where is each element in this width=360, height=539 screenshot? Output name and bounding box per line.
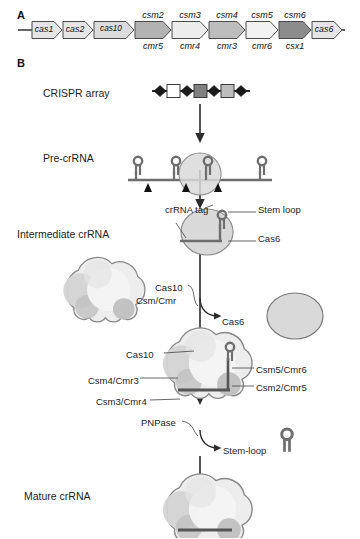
pre-crrna-graphic bbox=[128, 153, 272, 195]
crispr-repeat-diamond bbox=[154, 86, 166, 97]
gene-alt-bottom-cmr3: cmr3 bbox=[207, 41, 247, 51]
pre-crrna-stem-loop bbox=[258, 157, 266, 175]
callout-pnpase: PNPase bbox=[141, 417, 176, 428]
gene-name-cas10: cas10 bbox=[94, 24, 128, 33]
gene-alt-bottom-csx1: csx1 bbox=[277, 41, 313, 51]
gene-name-cas2: cas2 bbox=[63, 24, 87, 34]
released-stem-loop bbox=[282, 429, 293, 452]
crispr-array-graphic bbox=[152, 85, 250, 98]
callout-csm4-cmr3: Csm4/Cmr3 bbox=[88, 375, 139, 386]
gene-arrow-csm6 bbox=[279, 22, 311, 39]
stage-label-pre-crrna: Pre-crRNA bbox=[43, 152, 94, 164]
gene-alt-top-csm3: csm3 bbox=[170, 10, 210, 20]
callout-stem-loop-released: Stem-loop bbox=[223, 445, 266, 456]
callout-csm-cmr-assembly: Csm/Cmr bbox=[136, 295, 176, 306]
callout-cas6: Cas6 bbox=[258, 233, 280, 244]
crispr-repeat-diamond bbox=[208, 86, 220, 97]
assembled-interference-complex bbox=[163, 328, 252, 398]
figure-root: A B cas1cas2cas10csm2csm2cmr5csm3csm3cmr… bbox=[0, 0, 360, 539]
released-stem-loop-graphic bbox=[282, 429, 293, 452]
gene-arrow-csm5 bbox=[246, 22, 278, 39]
callout-csm5-cmr6: Csm5/Cmr6 bbox=[256, 364, 307, 375]
stage-label-crispr-array: CRISPR array bbox=[43, 87, 110, 99]
crispr-repeat-diamond bbox=[235, 86, 247, 97]
gene-alt-top-csm4: csm4 bbox=[207, 10, 247, 20]
gene-arrow-csm4 bbox=[209, 22, 245, 39]
cas10-csm-cmr-complex-free bbox=[63, 258, 145, 322]
callout-crrna-tag: crRNA tag bbox=[165, 204, 208, 215]
gene-alt-bottom-cmr6: cmr6 bbox=[244, 41, 280, 51]
stage-label-intermediate-crrna: Intermediate crRNA bbox=[17, 228, 109, 240]
pre-crrna-stem-loop bbox=[172, 157, 180, 175]
callout-csm3-cmr4: Csm3/Cmr4 bbox=[96, 396, 147, 407]
gene-arrow-csm2 bbox=[135, 22, 171, 39]
mature-crrna-complex bbox=[163, 474, 252, 538]
callout-stem-loop: Stem loop bbox=[258, 204, 301, 215]
cas6-released-protein bbox=[267, 293, 323, 339]
panel-b-pathway-diagram bbox=[0, 58, 360, 538]
gene-alt-top-csm2: csm2 bbox=[133, 10, 173, 20]
pre-crrna-stem-loop bbox=[134, 157, 142, 175]
gene-alt-top-csm5: csm5 bbox=[244, 10, 280, 20]
gene-alt-bottom-cmr4: cmr4 bbox=[170, 41, 210, 51]
gene-alt-bottom-cmr5: cmr5 bbox=[133, 41, 173, 51]
cleavage-site-marker bbox=[144, 183, 152, 192]
gene-alt-top-csm6: csm6 bbox=[277, 10, 313, 20]
callout-cas10-assembly: Cas10 bbox=[155, 282, 182, 293]
cut-off-caption bbox=[0, 530, 360, 539]
gene-arrow-csm3 bbox=[172, 22, 208, 39]
gene-name-cas1: cas1 bbox=[32, 24, 56, 34]
gene-name-cas6: cas6 bbox=[312, 24, 336, 34]
callout-csm2-cmr5: Csm2/Cmr5 bbox=[256, 382, 307, 393]
callout-cas10: Cas10 bbox=[126, 349, 153, 360]
stage-label-mature-crrna: Mature crRNA bbox=[24, 490, 91, 502]
crispr-spacer-box bbox=[194, 85, 207, 98]
crispr-spacer-box bbox=[221, 85, 234, 98]
callout-cas6-released: Cas6 bbox=[222, 316, 244, 327]
crispr-spacer-box bbox=[167, 85, 180, 98]
crispr-repeat-diamond bbox=[181, 86, 193, 97]
